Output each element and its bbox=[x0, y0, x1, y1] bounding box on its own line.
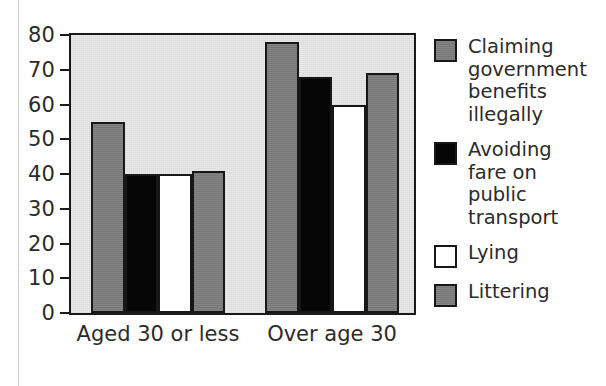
bars-layer bbox=[71, 35, 414, 313]
legend: Claiming government benefits illegallyAv… bbox=[434, 36, 602, 320]
legend-item[interactable]: Littering bbox=[434, 281, 602, 307]
legend-swatch-icon bbox=[434, 284, 457, 307]
y-tick-label: 10 bbox=[28, 266, 55, 290]
legend-item[interactable]: Lying bbox=[434, 242, 602, 268]
x-tick-label: Over age 30 bbox=[267, 322, 397, 346]
bar bbox=[158, 174, 192, 313]
y-tick-label: 80 bbox=[28, 23, 55, 47]
legend-item-label: Claiming government benefits illegally bbox=[468, 36, 587, 126]
legend-swatch-icon bbox=[434, 245, 457, 268]
bar bbox=[192, 171, 226, 313]
legend-item-label: Littering bbox=[468, 281, 550, 304]
legend-item[interactable]: Claiming government benefits illegally bbox=[434, 36, 602, 126]
x-axis: Aged 30 or lessOver age 30 bbox=[69, 322, 416, 362]
legend-swatch-icon bbox=[434, 39, 457, 62]
legend-item-label: Avoiding fare on public transport bbox=[468, 139, 558, 229]
bar bbox=[332, 105, 366, 314]
bar bbox=[299, 77, 333, 313]
legend-item-label: Lying bbox=[468, 242, 519, 265]
y-tick-label: 60 bbox=[28, 93, 55, 117]
y-tick-label: 20 bbox=[28, 232, 55, 256]
bar bbox=[265, 42, 299, 313]
legend-swatch-icon bbox=[434, 142, 457, 165]
bar bbox=[91, 122, 125, 313]
chart-root: 01020304050607080 Aged 30 or lessOver ag… bbox=[0, 0, 606, 386]
y-tick-label: 30 bbox=[28, 197, 55, 221]
y-tick-label: 0 bbox=[41, 301, 55, 325]
y-tick-label: 40 bbox=[28, 162, 55, 186]
legend-item[interactable]: Avoiding fare on public transport bbox=[434, 139, 602, 229]
y-axis: 01020304050607080 bbox=[0, 0, 69, 386]
bar bbox=[366, 73, 400, 313]
y-tick-label: 70 bbox=[28, 58, 55, 82]
x-tick-label: Aged 30 or less bbox=[77, 322, 240, 346]
y-tick-label: 50 bbox=[28, 127, 55, 151]
bar bbox=[125, 174, 159, 313]
